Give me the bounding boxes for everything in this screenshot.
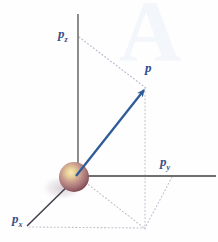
dotted-x-to-projection (29, 227, 145, 228)
x-axis-label: px (12, 212, 23, 229)
diagram-canvas: A (0, 0, 218, 242)
momentum-vector-label: p (145, 61, 152, 74)
dotted-origin-to-projection (80, 178, 144, 228)
momentum-vector-diagram: A pz py px p (0, 0, 218, 242)
y-axis-label: py (160, 155, 170, 172)
momentum-vector-arrow (76, 90, 144, 176)
dotted-y-to-projection (145, 177, 172, 228)
z-axis-label: pz (58, 27, 68, 44)
